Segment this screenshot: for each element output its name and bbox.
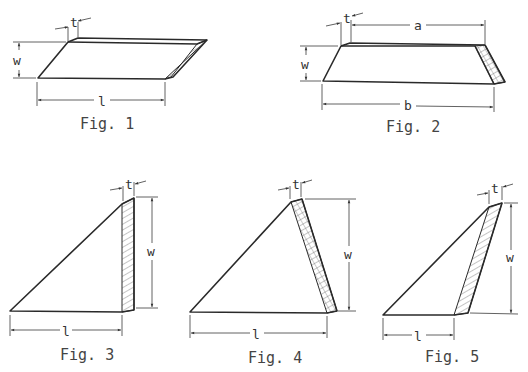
- figure-caption: Fig. 3: [60, 346, 114, 364]
- diagram-canvas: t w l Fig. 1 t a w: [0, 0, 528, 372]
- hatched-end-face: [122, 198, 134, 312]
- label-l: l: [252, 327, 260, 342]
- label-a: a: [414, 18, 422, 33]
- prism-outline: [10, 198, 134, 312]
- label-w: w: [13, 53, 21, 68]
- figure-caption: Fig. 4: [248, 349, 302, 367]
- label-w: w: [344, 247, 352, 262]
- label-b: b: [404, 98, 412, 113]
- label-l: l: [62, 324, 70, 339]
- figure-caption: Fig. 5: [425, 348, 479, 366]
- label-w: w: [301, 57, 309, 72]
- hatched-end-face: [454, 203, 502, 315]
- figure-3: t w l Fig. 3: [10, 177, 158, 364]
- label-l: l: [414, 329, 422, 344]
- figure-1: t w l Fig. 1: [13, 15, 207, 133]
- label-t: t: [292, 177, 300, 192]
- figure-2: t a w b Fig. 2: [300, 11, 505, 136]
- label-t: t: [343, 11, 351, 26]
- label-w: w: [506, 250, 514, 265]
- label-w: w: [147, 244, 155, 259]
- label-t: t: [491, 181, 499, 196]
- figure-caption: Fig. 1: [80, 115, 134, 133]
- figure-caption: Fig. 2: [386, 118, 440, 136]
- label-t: t: [125, 177, 133, 192]
- label-t: t: [70, 15, 78, 30]
- prism-outline: [383, 203, 502, 315]
- figure-4: t w l Fig. 4: [190, 177, 356, 367]
- figure-5: t w l Fig. 5: [383, 181, 518, 366]
- label-l: l: [98, 94, 106, 109]
